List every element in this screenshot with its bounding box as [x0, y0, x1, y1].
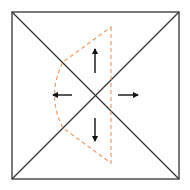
diagonals — [12, 12, 179, 179]
diagram-svg — [0, 0, 190, 190]
diagram-canvas — [0, 0, 190, 190]
